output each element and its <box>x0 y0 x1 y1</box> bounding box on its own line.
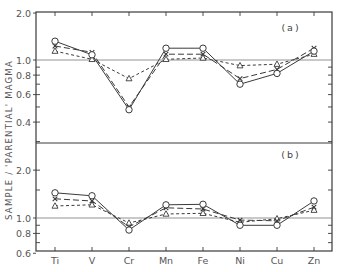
o-marker-icon <box>237 222 243 228</box>
o-marker-icon <box>163 45 169 51</box>
x-tick-label: Mn <box>159 255 173 266</box>
x-tick-label: Cr <box>124 255 135 266</box>
o-marker-icon <box>126 107 132 113</box>
o-marker-icon <box>274 222 280 228</box>
o-marker-icon <box>52 190 58 196</box>
axes: 2.01.00.80.60.42.01.00.80.6TiVCrMnFeNiCu… <box>16 8 332 266</box>
o-marker-icon <box>200 45 206 51</box>
y-tick-label: 0.8 <box>16 228 31 239</box>
o-marker-icon <box>274 70 280 76</box>
y-tick-label: 0.6 <box>16 89 31 100</box>
o-marker-icon <box>163 202 169 208</box>
o-marker-icon <box>52 38 58 44</box>
x-marker-icon <box>238 76 243 81</box>
o-marker-icon <box>311 198 317 204</box>
y-axis-title: SAMPLE / 'PARENTIAL' MAGMA <box>4 60 14 220</box>
x-tick-label: Zn <box>308 255 321 266</box>
x-tick-label: V <box>89 255 96 266</box>
o-marker-icon <box>237 81 243 87</box>
o-marker-icon <box>89 193 95 199</box>
panel-label-b: (b) <box>281 149 300 160</box>
panel-label-a: (a) <box>281 22 300 33</box>
o-marker-icon <box>311 48 317 54</box>
y-tick-label: 2.0 <box>16 8 31 19</box>
data-series <box>52 38 317 233</box>
^-marker-icon <box>126 75 132 80</box>
o-marker-icon <box>89 52 95 58</box>
x-tick-label: Ti <box>50 255 59 266</box>
y-tick-label: 1.0 <box>16 213 31 224</box>
o-marker-icon <box>126 227 132 233</box>
^-marker-icon <box>274 61 280 66</box>
y-tick-label: 0.4 <box>16 117 31 128</box>
^-marker-icon <box>52 48 58 53</box>
x-tick-label: Cu <box>271 255 284 266</box>
y-tick-label: 1.0 <box>16 55 31 66</box>
x-tick-label: Fe <box>198 255 209 266</box>
y-tick-label: 0.8 <box>16 70 31 81</box>
o-marker-icon <box>200 201 206 207</box>
spider-diagram: 2.01.00.80.60.42.01.00.80.6TiVCrMnFeNiCu… <box>0 0 340 272</box>
y-tick-label: 0.6 <box>16 248 31 259</box>
y-tick-label: 2.0 <box>16 165 31 176</box>
x-tick-label: Ni <box>235 255 245 266</box>
